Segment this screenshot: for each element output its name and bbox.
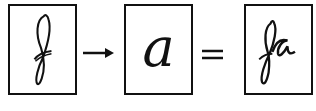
equals-icon bbox=[202, 48, 224, 62]
letter-box-a: a bbox=[124, 4, 193, 95]
equals-operator: = bbox=[202, 47, 224, 61]
cursive-f-glyph bbox=[10, 6, 75, 93]
arrow-operator: → bbox=[83, 44, 115, 56]
letter-box-f: f bbox=[8, 4, 77, 95]
ligature-box-fa: fa bbox=[244, 4, 313, 95]
letter-a-text: a bbox=[126, 18, 191, 78]
right-arrow-icon bbox=[83, 47, 115, 59]
cursive-fa-glyph bbox=[246, 6, 311, 93]
